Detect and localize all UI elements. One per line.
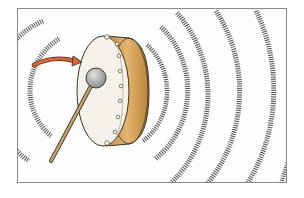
mallet-head: [86, 68, 106, 88]
sound-waves-right: [143, 11, 287, 183]
illustration-frame: Drum being struck by a mallet, sound wav…: [17, 8, 287, 183]
sound-waves-left: [18, 21, 59, 161]
strike-arrow-icon: [34, 56, 82, 66]
drum-illustration: [18, 9, 287, 183]
drum-face: [77, 36, 129, 146]
